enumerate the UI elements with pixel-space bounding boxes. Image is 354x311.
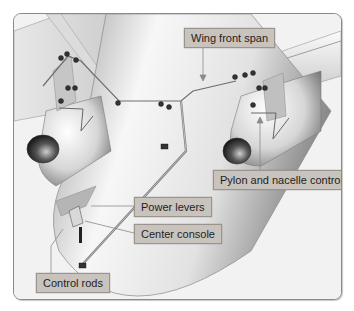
aircraft-illustration — [14, 14, 341, 299]
label-control-rods: Control rods — [36, 273, 110, 293]
label-center-console: Center console — [134, 224, 222, 244]
label-power-levers: Power levers — [134, 197, 212, 217]
label-pylon-nacelle-control: Pylon and nacelle control — [213, 170, 342, 190]
diagram-frame: Wing front span Pylon and nacelle contro… — [13, 13, 342, 300]
label-wing-front-span: Wing front span — [184, 28, 275, 48]
